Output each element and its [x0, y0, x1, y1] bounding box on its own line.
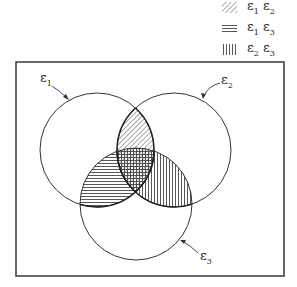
- set-label-e3: ε3: [200, 248, 212, 266]
- set-label-e1: ε1: [40, 70, 52, 88]
- arrow-e2: [201, 83, 220, 99]
- legend-label: ε1 ε3: [247, 19, 275, 37]
- arrow-e3: [180, 240, 198, 253]
- legend-label: ε2 ε3: [247, 40, 275, 58]
- set-label-e2: ε2: [221, 72, 233, 90]
- legend-swatch-diagonal: [222, 2, 237, 13]
- legend-swatch-horizontal: [222, 23, 237, 34]
- legend-label: ε1 ε2: [247, 0, 275, 16]
- venn-figure: ε1 ε2 ε1 ε3 ε2 ε3 ε1 ε2 ε3: [0, 0, 297, 287]
- legend-swatch-vertical: [222, 44, 237, 55]
- arrow-e1: [52, 86, 69, 100]
